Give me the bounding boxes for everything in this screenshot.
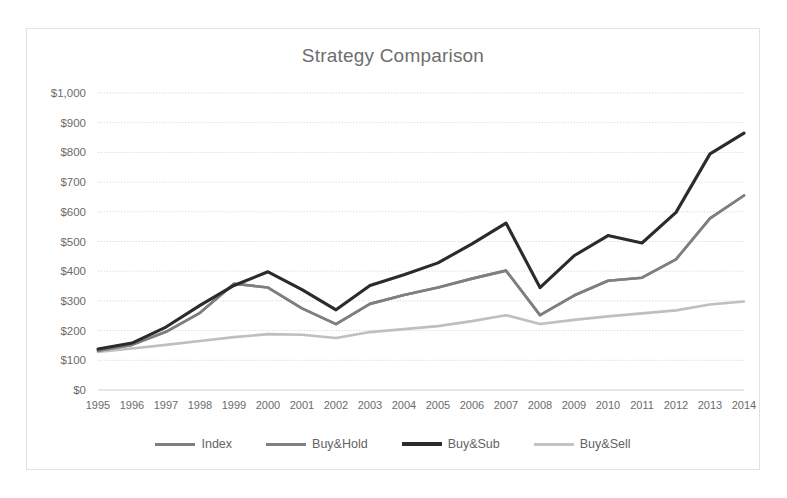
legend-swatch-icon: [402, 442, 442, 446]
chart-card: Strategy Comparison IndexBuy&HoldBuy&Sub…: [26, 28, 760, 470]
legend-swatch-icon: [534, 443, 574, 446]
chart-title: Strategy Comparison: [27, 45, 759, 67]
legend-swatch-icon: [266, 443, 306, 446]
legend-swatch-icon: [155, 443, 195, 446]
legend-item-index[interactable]: Index: [155, 437, 232, 451]
legend-item-label: Buy&Sell: [580, 437, 631, 451]
legend-item-buy-hold[interactable]: Buy&Hold: [266, 437, 368, 451]
legend-item-label: Buy&Sub: [448, 437, 500, 451]
legend-item-label: Index: [201, 437, 232, 451]
legend-item-label: Buy&Hold: [312, 437, 368, 451]
chart-legend: IndexBuy&HoldBuy&SubBuy&Sell: [27, 437, 759, 451]
legend-item-buy-sell[interactable]: Buy&Sell: [534, 437, 631, 451]
legend-item-buy-sub[interactable]: Buy&Sub: [402, 437, 500, 451]
